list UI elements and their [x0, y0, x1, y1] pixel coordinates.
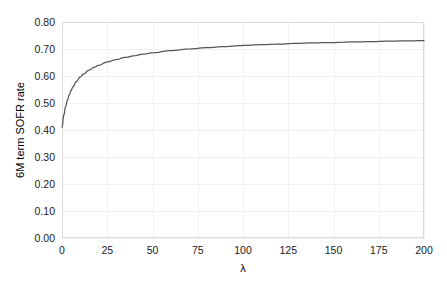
y-tick-label: 0.60	[35, 70, 56, 82]
y-axis-tick-labels: 0.000.100.200.300.400.500.600.700.80	[35, 16, 56, 244]
x-tick-label: 25	[101, 244, 113, 256]
x-tick-label: 150	[325, 244, 343, 256]
y-tick-label: 0.70	[35, 43, 56, 55]
y-tick-label: 0.10	[35, 205, 56, 217]
x-tick-label: 50	[147, 244, 159, 256]
y-tick-label: 0.40	[35, 124, 56, 136]
chart-figure: 0.000.100.200.300.400.500.600.700.80 025…	[0, 0, 447, 290]
y-axis-title: 6M term SOFR rate	[14, 82, 26, 178]
sofr-rate-line-chart: 0.000.100.200.300.400.500.600.700.80 025…	[0, 0, 447, 290]
x-tick-label: 0	[59, 244, 65, 256]
x-tick-label: 200	[415, 244, 433, 256]
x-tick-label: 100	[234, 244, 252, 256]
y-tick-label: 0.30	[35, 151, 56, 163]
y-tick-label: 0.20	[35, 178, 56, 190]
x-tick-label: 75	[192, 244, 204, 256]
x-axis-title: λ	[240, 262, 246, 274]
y-tick-label: 0.80	[35, 16, 56, 28]
y-tick-label: 0.00	[35, 232, 56, 244]
x-tick-label: 125	[279, 244, 297, 256]
x-tick-label: 175	[370, 244, 388, 256]
y-tick-label: 0.50	[35, 97, 56, 109]
